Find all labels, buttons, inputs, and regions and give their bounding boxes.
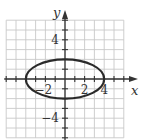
y-axis-arrow-icon <box>62 10 68 19</box>
ellipse-graph: x y −2244−4 <box>0 0 143 140</box>
y-tick-label: −4 <box>41 111 59 125</box>
y-axis-label: y <box>52 5 61 20</box>
y-tick-label: 4 <box>51 33 59 47</box>
x-tick-label: 4 <box>100 83 108 97</box>
x-axis-arrow-icon <box>129 76 138 82</box>
x-tick-label: −2 <box>35 83 53 97</box>
axes <box>4 10 138 140</box>
x-axis-label: x <box>131 83 139 98</box>
x-tick-label: 2 <box>81 83 89 97</box>
